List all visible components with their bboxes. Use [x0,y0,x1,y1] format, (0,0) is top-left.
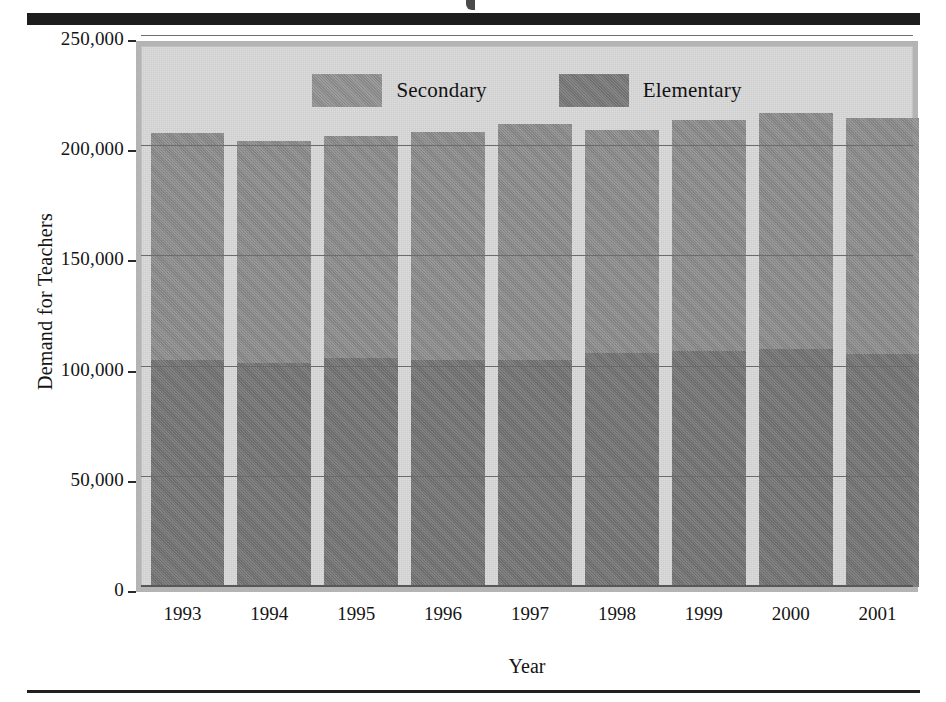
x-tick-label-1999: 1999 [667,603,741,625]
bar-segment-elementary-1998 [585,353,659,587]
bar-segment-secondary-1997 [498,124,572,360]
y-tick-50000 [128,481,136,483]
gridline-50000 [141,476,913,477]
bar-segment-secondary-1994 [237,141,311,364]
gridline-100000 [141,366,913,367]
x-tick-label-1993: 1993 [146,603,220,625]
bar-2000 [759,113,833,587]
y-tick-100000 [128,371,136,373]
gridline-150000 [141,255,913,256]
bar-segment-elementary-1993 [151,360,225,587]
y-axis-title: Demand for Teachers [34,42,57,562]
bar-2001 [846,118,920,587]
cropped-title-descender [466,0,475,10]
bar-1995 [324,136,398,587]
gridline-200000 [141,145,913,146]
bottom-rule-divider [27,690,920,693]
bar-segment-secondary-1996 [411,132,485,360]
chart-frame: Secondary Elementary [136,41,918,592]
y-tick-150000 [128,260,136,262]
legend-label-secondary: Secondary [396,78,486,103]
legend-item-secondary: Secondary [312,74,486,107]
bar-segment-secondary-1993 [151,133,225,360]
bar-segment-elementary-1999 [672,351,746,587]
bar-1998 [585,130,659,587]
plot-area: Secondary Elementary [141,46,913,587]
legend-swatch-secondary [312,74,382,107]
bar-segment-secondary-1998 [585,130,659,354]
y-tick-0 [128,591,136,593]
top-rule-divider [27,13,920,25]
legend-swatch-elementary [559,74,629,107]
y-tick-label-0: 0 [14,579,124,601]
x-tick-label-1995: 1995 [319,603,393,625]
gridline-250000 [141,35,913,36]
x-tick-label-1996: 1996 [406,603,480,625]
x-axis-title: Year [136,655,918,678]
bar-1999 [672,120,746,587]
y-tick-250000 [128,40,136,42]
bar-1996 [411,132,485,587]
bar-segment-secondary-1995 [324,136,398,358]
x-tick-label-2000: 2000 [754,603,828,625]
x-tick-label-1994: 1994 [232,603,306,625]
bar-segment-secondary-2001 [846,118,920,355]
bar-segment-elementary-1995 [324,358,398,587]
x-tick-label-1998: 1998 [580,603,654,625]
y-tick-label-150000: 150,000 [14,248,124,270]
legend-item-elementary: Elementary [559,74,742,107]
x-tick-label-2001: 2001 [841,603,915,625]
y-tick-label-200000: 200,000 [14,138,124,160]
legend-label-elementary: Elementary [643,78,742,103]
bar-segment-elementary-2001 [846,354,920,587]
chart-legend: Secondary Elementary [141,74,913,107]
figure-page: Secondary Elementary 050,000100,000150,0… [0,0,946,702]
bar-segment-elementary-1996 [411,360,485,587]
bar-segment-secondary-2000 [759,113,833,349]
bar-segment-elementary-1997 [498,360,572,587]
x-tick-label-1997: 1997 [493,603,567,625]
y-tick-label-100000: 100,000 [14,359,124,381]
bar-1997 [498,124,572,587]
y-tick-200000 [128,150,136,152]
gridline-0 [141,585,913,587]
bar-segment-elementary-2000 [759,349,833,587]
bar-1994 [237,141,311,587]
y-tick-label-250000: 250,000 [14,28,124,50]
bar-1993 [151,133,225,587]
bar-segment-secondary-1999 [672,120,746,351]
y-tick-label-50000: 50,000 [14,469,124,491]
